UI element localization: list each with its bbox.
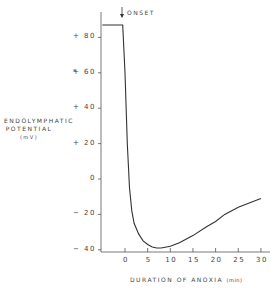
onset-arrow-icon [120, 7, 124, 18]
asterisk-mark: * [73, 68, 78, 76]
x-tick-label: 15 [187, 256, 201, 264]
y-tick-label: − 20 [73, 209, 96, 217]
y-axis-label-line2: POTENTIAL [4, 125, 54, 133]
x-axis-label: DURATION OF ANOXIA (min) [130, 276, 242, 283]
y-tick-label: + 20 [73, 139, 96, 147]
y-axis-label-line1: ENDOLYMPHATIC [4, 117, 54, 125]
x-tick-label: 25 [232, 256, 246, 264]
onset-label: ONSET [127, 9, 155, 16]
x-tick-label: 20 [210, 256, 224, 264]
y-axis-label-unit: (mV) [4, 133, 54, 141]
x-tick-label: 30 [255, 256, 269, 264]
data-line [102, 25, 261, 248]
x-axis-label-text: DURATION OF ANOXIA [130, 276, 223, 283]
chart-plot-area [0, 0, 277, 288]
x-tick-label: 10 [164, 256, 178, 264]
y-tick-label: + 80 [73, 32, 96, 40]
x-tick-label: 0 [119, 256, 133, 264]
y-tick-label: 0 [90, 174, 96, 182]
y-tick-label: − 40 [73, 245, 96, 253]
y-ticks [98, 37, 101, 249]
y-axis-label: ENDOLYMPHATIC POTENTIAL (mV) [4, 117, 54, 141]
x-ticks [125, 248, 261, 252]
x-tick-label: 5 [142, 256, 156, 264]
y-tick-label: + 40 [73, 103, 96, 111]
x-axis-label-unit: (min) [227, 277, 243, 283]
